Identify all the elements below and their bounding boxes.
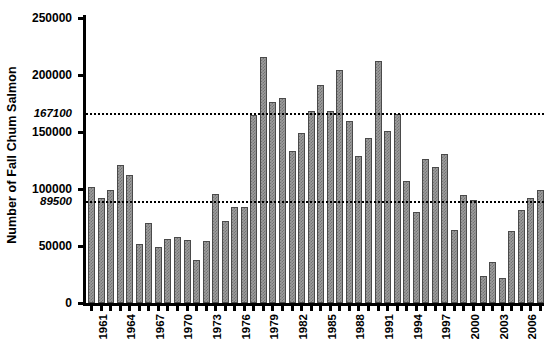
x-axis-tick-label: 1985 bbox=[326, 314, 338, 340]
x-axis-tick-label: 1964 bbox=[125, 314, 137, 340]
x-axis-tick bbox=[482, 306, 485, 311]
x-axis-tick-label: 1988 bbox=[354, 314, 366, 340]
x-axis-tick bbox=[396, 306, 399, 311]
bar bbox=[327, 111, 334, 303]
bar bbox=[441, 154, 448, 303]
bar bbox=[298, 133, 305, 303]
y-axis-tick-label: 200000 bbox=[0, 69, 72, 81]
y-axis-tick-label: 50000 bbox=[0, 240, 72, 252]
x-axis-tick bbox=[176, 306, 179, 311]
x-axis-tick bbox=[300, 306, 303, 311]
x-axis-tick-label: 1991 bbox=[383, 314, 395, 340]
bar bbox=[346, 121, 353, 303]
x-axis-tick bbox=[224, 306, 227, 311]
x-axis-tick bbox=[205, 306, 208, 311]
x-axis-tick bbox=[510, 306, 513, 311]
x-axis-tick bbox=[109, 306, 112, 311]
bar bbox=[336, 70, 343, 303]
bar bbox=[527, 198, 534, 303]
bar bbox=[403, 181, 410, 303]
bar bbox=[260, 57, 267, 303]
x-axis-tick bbox=[501, 306, 504, 311]
x-axis-tick bbox=[520, 306, 523, 311]
bar bbox=[422, 159, 429, 303]
bar bbox=[231, 207, 238, 303]
bar bbox=[184, 240, 191, 303]
y-axis-tick-label: 0 bbox=[0, 297, 72, 309]
x-axis-tick bbox=[529, 306, 532, 311]
x-axis-tick-label: 1982 bbox=[297, 314, 309, 340]
x-axis-tick bbox=[291, 306, 294, 311]
bar bbox=[88, 187, 95, 303]
y-axis-tick-label: 250000 bbox=[0, 12, 72, 24]
x-axis-tick bbox=[329, 306, 332, 311]
bar bbox=[432, 167, 439, 303]
x-axis-tick-label: 2000 bbox=[469, 314, 481, 340]
bar bbox=[375, 61, 382, 303]
bar bbox=[508, 231, 515, 303]
bar bbox=[250, 115, 257, 303]
x-axis-tick bbox=[195, 306, 198, 311]
bar bbox=[289, 151, 296, 303]
x-axis-tick-label: 1997 bbox=[440, 314, 452, 340]
bar bbox=[241, 207, 248, 303]
x-axis-tick bbox=[214, 306, 217, 311]
bar bbox=[499, 278, 506, 303]
x-axis-tick-label: 1961 bbox=[97, 314, 109, 340]
bar bbox=[174, 237, 181, 303]
plot-area bbox=[86, 18, 544, 303]
x-axis-tick bbox=[434, 306, 437, 311]
x-axis-tick bbox=[319, 306, 322, 311]
x-axis-tick bbox=[405, 306, 408, 311]
bar bbox=[126, 175, 133, 303]
reference-line-label-167100: 167100 bbox=[0, 107, 72, 119]
bar bbox=[107, 190, 114, 303]
bar bbox=[164, 239, 171, 303]
x-axis-tick-label: 1976 bbox=[240, 314, 252, 340]
reference-line-89500 bbox=[86, 201, 544, 203]
bar bbox=[145, 223, 152, 303]
x-axis-tick bbox=[472, 306, 475, 311]
x-axis-tick bbox=[539, 306, 542, 311]
bar bbox=[317, 85, 324, 303]
x-axis-tick bbox=[491, 306, 494, 311]
bar bbox=[537, 190, 544, 303]
bar bbox=[460, 195, 467, 303]
bar bbox=[489, 262, 496, 303]
x-axis-tick bbox=[453, 306, 456, 311]
bar bbox=[193, 260, 200, 303]
x-axis-tick bbox=[310, 306, 313, 311]
chart-container: Number of Fall Chum Salmon 0500001000001… bbox=[0, 0, 549, 355]
x-axis-tick bbox=[271, 306, 274, 311]
x-axis-tick bbox=[357, 306, 360, 311]
bar bbox=[155, 247, 162, 303]
x-axis-tick bbox=[252, 306, 255, 311]
bar bbox=[384, 131, 391, 303]
x-axis-tick bbox=[119, 306, 122, 311]
y-axis-title-text: Number of Fall Chum Salmon bbox=[5, 66, 19, 244]
bar bbox=[355, 156, 362, 303]
x-axis-tick bbox=[100, 306, 103, 311]
bar bbox=[480, 276, 487, 303]
bar bbox=[365, 138, 372, 303]
x-axis-tick bbox=[157, 306, 160, 311]
bar bbox=[451, 230, 458, 303]
x-axis-tick-label: 1994 bbox=[412, 314, 424, 340]
bar bbox=[518, 210, 525, 303]
bar bbox=[222, 221, 229, 303]
y-axis-tick bbox=[78, 17, 84, 20]
x-axis-tick bbox=[186, 306, 189, 311]
reference-line-label-89500: 89500 bbox=[0, 195, 72, 207]
y-axis-tick bbox=[78, 245, 84, 248]
x-axis-tick-label: 1970 bbox=[182, 314, 194, 340]
bar bbox=[212, 194, 219, 303]
y-axis-tick bbox=[78, 302, 84, 305]
x-axis-tick bbox=[281, 306, 284, 311]
bar bbox=[394, 114, 401, 303]
x-axis-tick bbox=[243, 306, 246, 311]
x-axis-tick bbox=[386, 306, 389, 311]
x-axis-tick bbox=[348, 306, 351, 311]
bar bbox=[136, 244, 143, 303]
x-axis-tick bbox=[262, 306, 265, 311]
x-axis-tick-label: 1967 bbox=[154, 314, 166, 340]
